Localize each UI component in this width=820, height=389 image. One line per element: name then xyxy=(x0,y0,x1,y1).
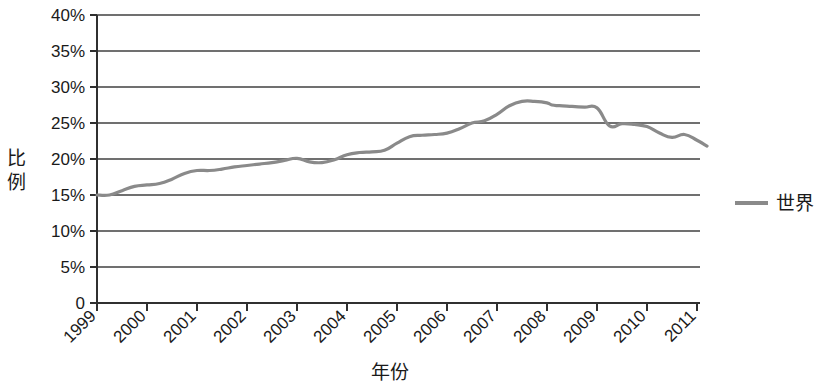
y-axis-tick-label: 20% xyxy=(51,150,85,169)
y-axis-title-char: 例 xyxy=(7,171,26,193)
legend-label: 世界 xyxy=(776,192,814,214)
y-axis-tick-label: 30% xyxy=(51,78,85,97)
chart-figure: 40%35%30%25%20%15%10%5%0 199920002001200… xyxy=(0,0,820,389)
x-axis-title-label: 年份 xyxy=(371,361,409,383)
y-axis-tick-label: 40% xyxy=(51,6,85,25)
y-axis-tick-label: 5% xyxy=(60,258,85,277)
line-chart: 40%35%30%25%20%15%10%5%0 199920002001200… xyxy=(0,0,820,389)
y-axis-tick-label: 15% xyxy=(51,186,85,205)
y-axis-tick-label: 25% xyxy=(51,114,85,133)
y-axis-title-char: 比 xyxy=(7,147,26,169)
y-axis-tick-label: 35% xyxy=(51,42,85,61)
y-axis-tick-label: 10% xyxy=(51,222,85,241)
